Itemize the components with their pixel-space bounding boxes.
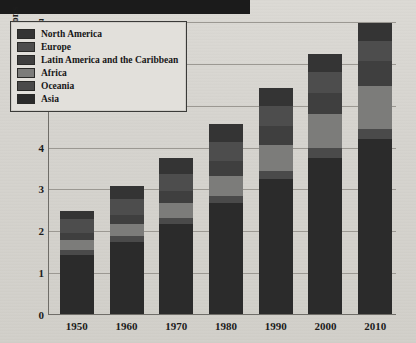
legend-item-label: Latin America and the Caribbean [41,55,178,65]
legend-item-north-america[interactable]: North America [17,28,178,40]
legend-item-label: Asia [41,94,59,104]
bar-1980[interactable] [209,124,243,314]
bar-segment-asia [110,242,144,314]
bar-segment-asia [60,255,94,314]
bar-segment-asia [209,203,243,314]
bar-segment-africa [259,145,293,171]
bar-segment-africa [110,224,144,236]
page-background: Population in billions 01234567 19501960… [0,0,416,343]
legend-swatch-icon [17,29,35,39]
bar-segment-latin-america-and-the-caribbean [159,191,193,203]
bar-2000[interactable] [308,54,342,314]
bar-segment-north-america [110,186,144,199]
stacked-bar-chart: Population in billions 01234567 19501960… [0,14,416,343]
bar-segment-asia [259,179,293,314]
bar-segment-latin-america-and-the-caribbean [308,93,342,115]
bar-segment-europe [308,72,342,93]
bar-1970[interactable] [159,158,193,314]
legend-item-africa[interactable]: Africa [17,67,178,79]
bar-1990[interactable] [259,88,293,314]
legend-item-oceania[interactable]: Oceania [17,80,178,92]
bar-segment-north-america [209,124,243,142]
legend-swatch-icon [17,94,35,104]
y-tick-label-2: 2 [24,225,44,237]
bar-2010[interactable] [358,23,392,314]
bar-segment-latin-america-and-the-caribbean [209,161,243,176]
bar-segment-europe [358,41,392,62]
bar-segment-latin-america-and-the-caribbean [358,61,392,86]
legend-item-label: North America [41,29,102,39]
bar-segment-africa [308,114,342,148]
legend-item-latin-america-and-the-caribbean[interactable]: Latin America and the Caribbean [17,54,178,66]
legend-swatch-icon [17,55,35,65]
bar-segment-africa [159,203,193,218]
bar-1950[interactable] [60,211,94,314]
bar-segment-oceania [209,196,243,203]
bar-segment-oceania [358,129,392,139]
bar-segment-oceania [308,148,342,158]
bar-segment-latin-america-and-the-caribbean [259,126,293,144]
bar-segment-europe [209,142,243,161]
bar-segment-asia [358,139,392,314]
legend-item-label: Europe [41,42,71,52]
bar-segment-north-america [358,23,392,41]
bar-segment-africa [358,86,392,129]
bar-segment-oceania [259,171,293,179]
legend-swatch-icon [17,68,35,78]
chart-legend: North AmericaEuropeLatin America and the… [10,21,187,112]
legend-swatch-icon [17,42,35,52]
y-tick-label-0: 0 [24,309,44,321]
x-axis-line [48,314,396,315]
y-tick-label-3: 3 [24,183,44,195]
y-tick-label-1: 1 [24,267,44,279]
bar-segment-europe [60,219,94,234]
legend-item-asia[interactable]: Asia [17,93,178,105]
bar-1960[interactable] [110,186,144,314]
bar-segment-europe [110,199,144,215]
bar-segment-latin-america-and-the-caribbean [110,215,144,224]
bar-segment-north-america [308,54,342,72]
bar-segment-africa [60,240,94,250]
bar-segment-north-america [159,158,193,174]
x-tick-label-2010: 2010 [345,320,405,332]
legend-item-europe[interactable]: Europe [17,41,178,53]
legend-item-label: Africa [41,68,67,78]
legend-item-label: Oceania [41,81,74,91]
bar-segment-north-america [60,211,94,218]
bar-segment-europe [259,106,293,126]
bar-segment-north-america [259,88,293,106]
bar-segment-asia [308,158,342,314]
page-header-band [0,0,250,14]
bar-segment-latin-america-and-the-caribbean [60,233,94,240]
y-tick-label-4: 4 [24,142,44,154]
bar-segment-africa [209,176,243,196]
bar-segment-asia [159,224,193,314]
bar-segment-europe [159,174,193,191]
legend-swatch-icon [17,81,35,91]
